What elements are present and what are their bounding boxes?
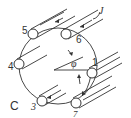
node-3-circle bbox=[37, 96, 47, 106]
top-right-label-j: J bbox=[99, 5, 104, 16]
node-4-label: 4 bbox=[8, 61, 14, 72]
node-5-label: 5 bbox=[22, 25, 28, 36]
node-4-circle bbox=[14, 59, 24, 69]
node-1-circle bbox=[87, 68, 97, 78]
corner-label-c: C bbox=[10, 99, 19, 113]
node-6-circle bbox=[61, 29, 71, 39]
main-circle bbox=[19, 28, 97, 104]
node-3-label: 3 bbox=[30, 101, 36, 112]
node-1-label: 1 bbox=[92, 57, 98, 68]
rod-circle-diagram: 5 6 4 1 3 7 φ C J bbox=[0, 0, 131, 118]
diagram-canvas: 5 6 4 1 3 7 φ C J bbox=[0, 0, 131, 118]
node-6-label: 6 bbox=[76, 34, 82, 45]
node-5-circle bbox=[28, 29, 38, 39]
node-7-circle bbox=[71, 98, 81, 108]
node-7-label: 7 bbox=[73, 109, 78, 118]
angle-phi-label: φ bbox=[71, 58, 77, 69]
